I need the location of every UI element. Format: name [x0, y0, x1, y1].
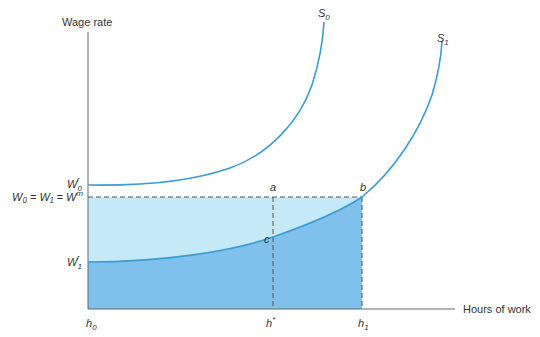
hstar-label: h*: [266, 315, 276, 329]
s1-label: S1: [437, 32, 449, 47]
s0-curve: [88, 22, 324, 185]
labor-supply-diagram: Wage rate Hours of work S0 S1 W0r W₀ = W…: [0, 0, 540, 337]
wm-label: W₀ = W₁ = Wm: [12, 189, 83, 203]
x-axis-label: Hours of work: [463, 303, 531, 315]
w1r-label: W1r: [67, 253, 82, 271]
h1-label: h1: [358, 317, 369, 332]
point-b-label: b: [360, 181, 366, 193]
point-c-label: c: [264, 233, 270, 245]
point-a-label: a: [270, 181, 276, 193]
s0-label: S0: [318, 7, 330, 22]
y-axis-label: Wage rate: [62, 16, 112, 28]
h0-label: h0: [86, 317, 97, 332]
